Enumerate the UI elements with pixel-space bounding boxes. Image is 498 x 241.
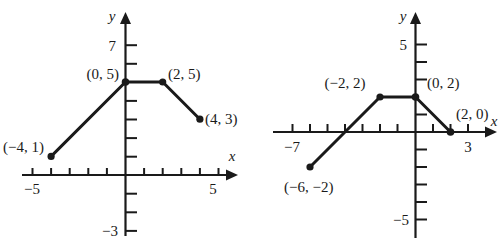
right-ytick-label-5: 5 [400,37,408,53]
left-point-marker [48,153,55,160]
left-xtick-label-neg5: −5 [24,181,40,197]
right-y-axis-label: y [398,8,407,24]
left-point-label-a: (−4, 1) [3,139,44,156]
right-xtick-label-3: 3 [464,139,472,155]
left-point-label-c: (2, 5) [168,66,201,83]
right-xtick-label-neg7: −7 [284,139,300,155]
right-ytick-label-neg5: −5 [393,212,409,228]
right-point-marker [447,128,455,136]
left-point-label-b: (0, 5) [87,66,120,83]
right-point-label-c: (0, 2) [427,75,460,92]
right-x-axis-label: x [490,113,498,129]
left-ytick-label-7: 7 [109,38,117,54]
left-point-marker [122,78,130,86]
left-y-axis-label: y [107,8,116,24]
right-point-marker [306,163,313,170]
left-graph-panel: y x −5 5 7 −3 (−4, 1) (0, 5) (2, 5) (4, … [0,0,249,241]
right-point-label-a: (−6, −2) [284,179,333,196]
figure-canvas: y x −5 5 7 −3 (−4, 1) (0, 5) (2, 5) (4, … [0,0,498,241]
left-y-axis-arrow [120,12,131,24]
right-point-label-b: (−2, 2) [325,75,366,92]
left-x-axis-label: x [228,148,236,164]
left-x-axis-arrow [226,170,238,181]
left-xtick-label-5: 5 [209,181,217,197]
right-point-label-d: (2, 0) [456,106,489,123]
right-point-marker [412,93,420,101]
left-point-label-d: (4, 3) [205,111,238,128]
left-y-ticks [126,45,138,231]
right-point-marker [376,93,383,100]
left-point-marker [196,116,203,123]
left-point-marker [159,78,166,85]
right-axes [273,12,497,238]
right-graph-panel: y x −7 3 5 −5 (−6, −2) (−2, 2) (0, 2) (2… [249,0,498,241]
left-ytick-label-neg3: −3 [102,223,118,239]
right-y-axis-arrow [410,12,421,24]
